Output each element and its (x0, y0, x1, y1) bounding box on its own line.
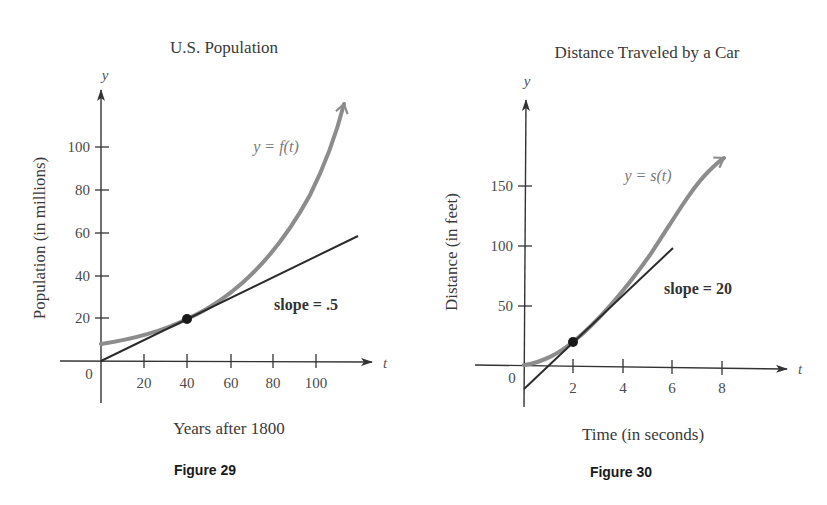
curve-label: y = s(t) (622, 167, 671, 185)
y-tick-label: 20 (75, 310, 90, 326)
y-axis-label: Population (in millions) (30, 157, 49, 319)
y-tick-label: 50 (498, 298, 513, 314)
x-tick-label: 40 (180, 375, 195, 391)
figure-caption: Figure 29 (174, 462, 236, 478)
slope-label: slope = 20 (664, 280, 732, 298)
y-axis (524, 100, 526, 407)
y-axis-label: Distance (in feet) (442, 193, 461, 311)
x-axis-var: t (383, 355, 388, 371)
figure-29: U.S. Population y t 0 100 80 60 40 20 20 (30, 38, 388, 478)
x-tick-label: 60 (224, 375, 239, 391)
figure-30: Distance Traveled by a Car y t 0 150 100… (442, 43, 803, 480)
origin-label: 0 (85, 366, 93, 382)
chart-title: U.S. Population (170, 38, 279, 57)
tangent-point (182, 314, 192, 324)
x-tick-label: 2 (569, 380, 577, 396)
x-tick-label: 20 (137, 375, 152, 391)
x-axis-label: Years after 1800 (173, 419, 285, 438)
x-tick-label: 8 (718, 380, 726, 396)
tangent-point (568, 337, 578, 347)
x-axis (475, 365, 787, 369)
curve-label: y = f(t) (251, 138, 298, 156)
y-ticks (95, 147, 109, 318)
x-tick-label: 6 (668, 380, 676, 396)
x-tick-label: 80 (266, 375, 281, 391)
figure-caption: Figure 30 (590, 464, 652, 480)
figures-canvas: U.S. Population y t 0 100 80 60 40 20 20 (0, 0, 827, 505)
y-tick-label: 100 (491, 238, 514, 254)
y-tick-label: 150 (491, 178, 514, 194)
x-axis-var: t (798, 361, 803, 377)
chart-title: Distance Traveled by a Car (554, 43, 739, 62)
x-axis (60, 361, 372, 362)
x-axis-label: Time (in seconds) (582, 425, 704, 444)
y-tick-label: 80 (75, 182, 90, 198)
y-axis-var: y (522, 73, 531, 89)
slope-label: slope = .5 (274, 296, 338, 314)
y-tick-label: 60 (75, 225, 90, 241)
y-axis-var: y (100, 67, 109, 83)
x-tick-label: 4 (619, 380, 627, 396)
y-tick-label: 100 (68, 139, 91, 155)
curve-s (524, 158, 724, 365)
origin-label: 0 (508, 370, 516, 386)
y-tick-label: 40 (75, 268, 90, 284)
x-tick-label: 100 (305, 375, 328, 391)
